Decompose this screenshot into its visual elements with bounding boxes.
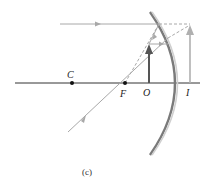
dashed-extension-line xyxy=(168,25,190,38)
dashed-extension-line xyxy=(125,24,159,83)
focal-point-label: F xyxy=(119,88,127,99)
ray-arrowhead-icon xyxy=(95,22,101,27)
image-label: I xyxy=(185,87,190,98)
virtual-image-arrow xyxy=(186,25,194,83)
figure-caption: (c) xyxy=(82,167,92,177)
ray-diagram: C F O I (c) xyxy=(0,0,205,184)
center-label: C xyxy=(67,69,74,80)
incident-parallel-ray xyxy=(60,22,159,27)
object-label: O xyxy=(143,87,150,98)
ray-toward-focal-point xyxy=(68,38,168,132)
arrowhead-icon xyxy=(145,44,153,54)
focal-point xyxy=(123,81,127,85)
object-arrow xyxy=(145,44,153,83)
center-point xyxy=(70,81,74,85)
